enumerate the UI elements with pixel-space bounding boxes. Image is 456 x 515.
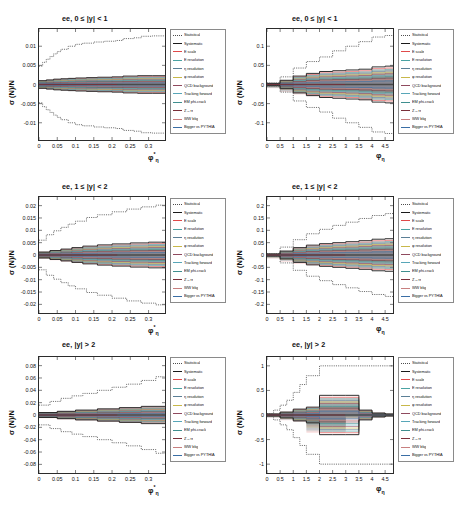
- x-axis-label: φ*η: [148, 151, 159, 163]
- legend-item[interactable]: Z→ττ: [172, 435, 224, 443]
- legend-swatch-icon: [173, 455, 182, 456]
- legend-item-label: E resolution: [412, 227, 432, 231]
- legend-item[interactable]: η resolution: [172, 234, 224, 242]
- y-tick-label: 0.15: [236, 215, 264, 221]
- legend-swatch-icon: [173, 102, 182, 103]
- legend-swatch-icon: [173, 220, 182, 221]
- legend-item-label: EM phi-crack: [412, 269, 434, 273]
- legend-item[interactable]: E scale: [172, 48, 224, 56]
- legend-item[interactable]: E resolution: [172, 384, 224, 392]
- legend-item-label: QCD background: [184, 84, 213, 88]
- legend-item[interactable]: EM phi-crack: [172, 98, 224, 106]
- legend-item[interactable]: η resolution: [400, 393, 452, 401]
- legend-item[interactable]: E resolution: [172, 225, 224, 233]
- legend-item-label: WW bkg: [184, 117, 198, 121]
- legend-item[interactable]: Bigger vs PYTHIA: [172, 292, 224, 300]
- legend-item[interactable]: Tracking forward: [172, 90, 224, 98]
- legend-item[interactable]: E resolution: [400, 225, 452, 233]
- legend-item[interactable]: E resolution: [400, 56, 452, 64]
- legend-item[interactable]: Systematic: [172, 367, 224, 375]
- legend-item[interactable]: QCD background: [172, 250, 224, 258]
- legend-item[interactable]: Systematic: [400, 208, 452, 216]
- legend-item[interactable]: E resolution: [172, 56, 224, 64]
- legend-item[interactable]: Tracking forward: [400, 418, 452, 426]
- plot-frame: [38, 196, 166, 314]
- legend-item[interactable]: Systematic: [172, 208, 224, 216]
- y-axis-label: σ (N)/N: [235, 410, 244, 435]
- legend-item[interactable]: QCD background: [400, 409, 452, 417]
- panel-title: ee, 1 ≤ |y| < 2: [292, 182, 338, 191]
- y-tick-label: -0.06: [8, 449, 36, 455]
- legend-item[interactable]: WW bkg: [400, 443, 452, 451]
- legend-item[interactable]: φ resolution: [172, 73, 224, 81]
- legend-item[interactable]: Statistical: [172, 359, 224, 367]
- legend-item[interactable]: φ resolution: [400, 401, 452, 409]
- legend-item-label: WW bkg: [412, 286, 426, 290]
- legend-item[interactable]: EM phi-crack: [400, 426, 452, 434]
- legend-item[interactable]: Systematic: [172, 39, 224, 47]
- legend-item[interactable]: WW bkg: [400, 115, 452, 123]
- legend-item[interactable]: η resolution: [172, 393, 224, 401]
- y-tick-label: 0.005: [8, 240, 36, 246]
- legend-item[interactable]: Z→ττ: [172, 276, 224, 284]
- legend-item[interactable]: φ resolution: [172, 401, 224, 409]
- legend-item[interactable]: Systematic: [400, 39, 452, 47]
- plot-area: [267, 357, 393, 473]
- legend-item[interactable]: QCD background: [400, 250, 452, 258]
- legend-item-label: Bigger vs PYTHIA: [412, 453, 443, 457]
- legend-item[interactable]: QCD background: [172, 81, 224, 89]
- legend-item[interactable]: WW bkg: [172, 115, 224, 123]
- legend-item[interactable]: Statistical: [400, 200, 452, 208]
- legend-item[interactable]: WW bkg: [400, 284, 452, 292]
- legend-item[interactable]: Z→ττ: [400, 107, 452, 115]
- legend-item-label: φ resolution: [412, 75, 432, 79]
- legend-item[interactable]: Statistical: [172, 200, 224, 208]
- legend-item-label: η resolution: [184, 67, 204, 71]
- legend-item[interactable]: η resolution: [400, 65, 452, 73]
- legend-item-label: E resolution: [184, 386, 204, 390]
- y-tick-label: -0.15: [236, 289, 264, 295]
- legend-item[interactable]: WW bkg: [172, 284, 224, 292]
- legend-item[interactable]: Z→ττ: [400, 435, 452, 443]
- legend-item-label: EM phi-crack: [184, 269, 206, 273]
- legend-item[interactable]: Tracking forward: [400, 259, 452, 267]
- legend-item[interactable]: Bigger vs PYTHIA: [400, 451, 452, 459]
- legend-item[interactable]: Z→ττ: [172, 107, 224, 115]
- legend-item[interactable]: φ resolution: [400, 73, 452, 81]
- legend-item-label: EM phi-crack: [412, 428, 434, 432]
- legend-item[interactable]: E scale: [172, 217, 224, 225]
- legend-item[interactable]: Bigger vs PYTHIA: [400, 292, 452, 300]
- legend-item[interactable]: Statistical: [400, 359, 452, 367]
- legend-item[interactable]: η resolution: [172, 65, 224, 73]
- legend-item[interactable]: φ resolution: [400, 242, 452, 250]
- legend-item[interactable]: φ resolution: [172, 242, 224, 250]
- legend-swatch-icon: [173, 279, 182, 280]
- legend-item[interactable]: Tracking forward: [172, 418, 224, 426]
- legend-item[interactable]: Tracking forward: [172, 259, 224, 267]
- legend-swatch-icon: [173, 296, 182, 297]
- legend-item[interactable]: E scale: [400, 217, 452, 225]
- legend-item[interactable]: E resolution: [400, 384, 452, 392]
- legend-item[interactable]: E scale: [400, 48, 452, 56]
- legend-item[interactable]: E scale: [172, 376, 224, 384]
- legend-item[interactable]: Z→ττ: [400, 276, 452, 284]
- legend-item[interactable]: Bigger vs PYTHIA: [172, 451, 224, 459]
- legend-item[interactable]: EM phi-crack: [172, 267, 224, 275]
- legend-item[interactable]: η resolution: [400, 234, 452, 242]
- legend-item[interactable]: QCD background: [400, 81, 452, 89]
- legend-item[interactable]: Statistical: [172, 31, 224, 39]
- legend-item[interactable]: EM phi-crack: [172, 426, 224, 434]
- legend-item[interactable]: Bigger vs PYTHIA: [400, 123, 452, 131]
- legend-item[interactable]: E scale: [400, 376, 452, 384]
- legend-item[interactable]: WW bkg: [172, 443, 224, 451]
- legend-item-label: φ resolution: [184, 244, 204, 248]
- legend-item[interactable]: EM phi-crack: [400, 267, 452, 275]
- legend-item[interactable]: Bigger vs PYTHIA: [172, 123, 224, 131]
- legend-item[interactable]: Tracking forward: [400, 90, 452, 98]
- x-tick-label: 4.5: [381, 143, 389, 149]
- legend-item-label: φ resolution: [412, 244, 432, 248]
- legend-item[interactable]: Statistical: [400, 31, 452, 39]
- legend-item[interactable]: Systematic: [400, 367, 452, 375]
- legend-item[interactable]: EM phi-crack: [400, 98, 452, 106]
- legend-item[interactable]: QCD background: [172, 409, 224, 417]
